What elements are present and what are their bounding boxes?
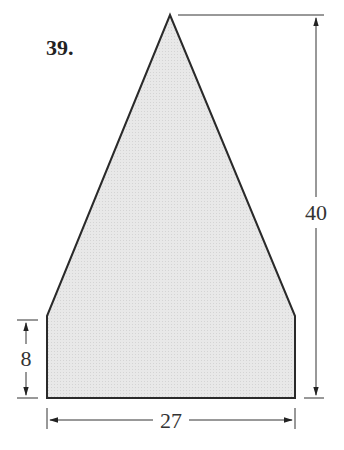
rect-height-label: 8 — [21, 346, 32, 371]
rect-height-dimension: 8 — [17, 320, 38, 398]
height-label: 40 — [305, 200, 327, 225]
width-dimension: 27 — [47, 408, 295, 433]
figure-diagram: 39. 40 8 27 — [0, 0, 344, 450]
width-label: 27 — [160, 408, 182, 433]
pentagon-shape — [47, 15, 295, 398]
problem-number: 39. — [46, 35, 74, 60]
